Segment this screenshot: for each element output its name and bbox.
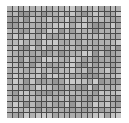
mosaic-tile (99, 63, 104, 68)
mosaic-tile (7, 29, 12, 34)
mosaic-tile (42, 108, 47, 113)
mosaic-tile (93, 113, 98, 118)
mosaic-tile (42, 51, 47, 56)
mosaic-tile (7, 34, 12, 39)
mosaic-tile (42, 102, 47, 107)
mosaic-tile (7, 57, 12, 62)
mosaic-tile (42, 74, 47, 79)
mosaic-tile (76, 91, 81, 96)
mosaic-tile (65, 12, 70, 17)
mosaic-tile (111, 46, 116, 51)
mosaic-tile (105, 46, 110, 51)
mosaic-tile (59, 17, 64, 22)
mosaic-tile (47, 113, 52, 118)
mosaic-tile (76, 51, 81, 56)
mosaic-tile (93, 85, 98, 90)
mosaic-tile (59, 85, 64, 90)
mosaic-tile (53, 79, 58, 84)
mosaic-tile (59, 6, 64, 11)
mosaic-tile (76, 96, 81, 101)
mosaic-tile (13, 102, 18, 107)
mosaic-tile (82, 108, 87, 113)
mosaic-tile (111, 113, 116, 118)
mosaic-tile (70, 12, 75, 17)
mosaic-tile (82, 51, 87, 56)
mosaic-tile (53, 85, 58, 90)
mosaic-tile (111, 74, 116, 79)
mosaic-tile (30, 91, 35, 96)
mosaic-tile (13, 79, 18, 84)
mosaic-tile (88, 6, 93, 11)
mosaic-tile (19, 57, 24, 62)
mosaic-tile (47, 40, 52, 45)
mosaic-tile (30, 102, 35, 107)
mosaic-tile (53, 12, 58, 17)
mosaic-tile (36, 74, 41, 79)
mosaic-tile (93, 40, 98, 45)
mosaic-tile (19, 17, 24, 22)
mosaic-tile (53, 96, 58, 101)
mosaic-tile (111, 108, 116, 113)
mosaic-tile (65, 113, 70, 118)
mosaic-tile (99, 57, 104, 62)
mosaic-tile (24, 29, 29, 34)
mosaic-tile (59, 79, 64, 84)
mosaic-tile (53, 102, 58, 107)
mosaic-tile (93, 57, 98, 62)
mosaic-tile (99, 46, 104, 51)
mosaic-tile (76, 63, 81, 68)
mosaic-tile (70, 57, 75, 62)
mosaic-tile (47, 63, 52, 68)
mosaic-tile (93, 51, 98, 56)
mosaic-tile (111, 63, 116, 68)
mosaic-tile (65, 85, 70, 90)
mosaic-tile (42, 85, 47, 90)
mosaic-tile (70, 34, 75, 39)
mosaic-tile (30, 17, 35, 22)
mosaic-tile (30, 57, 35, 62)
mosaic-tile (88, 113, 93, 118)
mosaic-tile (116, 102, 121, 107)
mosaic-tile (42, 17, 47, 22)
mosaic-tile (30, 79, 35, 84)
mosaic-tile (116, 91, 121, 96)
mosaic-tile (13, 63, 18, 68)
mosaic-tile (111, 6, 116, 11)
mosaic-tile (7, 40, 12, 45)
mosaic-tile (36, 108, 41, 113)
mosaic-tile (13, 85, 18, 90)
mosaic-tile (30, 40, 35, 45)
mosaic-tile (116, 96, 121, 101)
mosaic-tile (53, 113, 58, 118)
mosaic-tile (65, 29, 70, 34)
mosaic-tile (70, 102, 75, 107)
mosaic-tile (82, 63, 87, 68)
mosaic-tile (99, 74, 104, 79)
mosaic-tile (42, 91, 47, 96)
mosaic-tile (36, 102, 41, 107)
mosaic-tile (105, 108, 110, 113)
mosaic-tile (42, 23, 47, 28)
mosaic-tile (30, 63, 35, 68)
mosaic-tile (82, 6, 87, 11)
mosaic-tile (93, 6, 98, 11)
mosaic-tile (99, 96, 104, 101)
mosaic-tile (82, 79, 87, 84)
mosaic-tile (7, 68, 12, 73)
mosaic-tile (88, 63, 93, 68)
mosaic-tile (82, 91, 87, 96)
mosaic-tile (24, 91, 29, 96)
mosaic-tile (93, 102, 98, 107)
mosaic-tile (105, 17, 110, 22)
mosaic-tile (36, 51, 41, 56)
mosaic-tile (88, 102, 93, 107)
mosaic-tile (88, 17, 93, 22)
mosaic-tile (19, 23, 24, 28)
mosaic-tile (82, 113, 87, 118)
mosaic-tile (99, 68, 104, 73)
mosaic-tile (76, 34, 81, 39)
mosaic-tile (13, 51, 18, 56)
mosaic-tile (88, 12, 93, 17)
mosaic-tile (76, 74, 81, 79)
mosaic-tile (53, 63, 58, 68)
